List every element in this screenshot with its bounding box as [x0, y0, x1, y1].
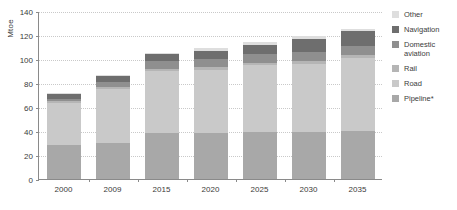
- x-axis-tick-mark: [187, 179, 188, 182]
- bar-segment[interactable]: [194, 133, 228, 179]
- bar-segment[interactable]: [292, 52, 326, 62]
- bar-segment[interactable]: [341, 31, 375, 45]
- bar-segment[interactable]: [292, 132, 326, 179]
- x-axis-tick-mark: [236, 179, 237, 182]
- legend-swatch-icon: [392, 95, 399, 102]
- stacked-bar[interactable]: [194, 48, 228, 179]
- y-axis-tick-label: 60: [24, 104, 33, 113]
- legend-item[interactable]: Road: [392, 79, 457, 88]
- x-axis-tick-label: 2015: [153, 185, 171, 194]
- bar-segment[interactable]: [243, 54, 277, 62]
- x-axis-tick-label: 2030: [300, 185, 318, 194]
- x-axis-tick-label: 2000: [55, 185, 73, 194]
- bar-segment[interactable]: [341, 58, 375, 131]
- bar-segment[interactable]: [341, 131, 375, 179]
- bar-segment[interactable]: [243, 132, 277, 179]
- stacked-bar[interactable]: [292, 36, 326, 179]
- bar-group[interactable]: 2015: [145, 12, 179, 179]
- y-axis-tick-label: 100: [20, 56, 33, 65]
- stacked-bar-chart: Mtoe 020406080100120140 2000200920152020…: [0, 0, 457, 210]
- bar-segment[interactable]: [145, 61, 179, 68]
- legend-swatch-icon: [392, 11, 399, 18]
- legend-item-label: Pipeline*: [404, 94, 434, 103]
- bar-group[interactable]: 2009: [96, 12, 130, 179]
- x-axis-tick-mark: [89, 179, 90, 182]
- bar-segment[interactable]: [292, 39, 326, 52]
- legend-item-label: Other: [404, 10, 423, 19]
- bar-group[interactable]: 2020: [194, 12, 228, 179]
- bar-segment[interactable]: [194, 70, 228, 134]
- y-axis-tick-label: 20: [24, 152, 33, 161]
- bar-segment[interactable]: [194, 59, 228, 67]
- plot-area: 020406080100120140 200020092015202020252…: [38, 12, 382, 180]
- legend-item-label: Road: [404, 79, 422, 88]
- bar-segment[interactable]: [292, 64, 326, 132]
- stacked-bar[interactable]: [145, 53, 179, 179]
- y-axis-tick-mark: [36, 180, 39, 181]
- x-axis-tick-label: 2009: [104, 185, 122, 194]
- x-axis-tick-mark: [334, 179, 335, 182]
- legend-item-label: Rail: [404, 64, 417, 73]
- stacked-bar[interactable]: [47, 93, 81, 179]
- y-axis-tick-label: 0: [29, 176, 33, 185]
- bar-group[interactable]: 2030: [292, 12, 326, 179]
- bar-group[interactable]: 2035: [341, 12, 375, 179]
- legend-item[interactable]: Rail: [392, 64, 457, 73]
- bar-segment[interactable]: [145, 71, 179, 133]
- bar-group[interactable]: 2025: [243, 12, 277, 179]
- bar-group[interactable]: 2000: [47, 12, 81, 179]
- y-axis-tick-label: 140: [20, 8, 33, 17]
- legend-swatch-icon: [392, 26, 399, 33]
- legend-item-label: Domestic aviation: [404, 40, 435, 58]
- bar-segment[interactable]: [341, 46, 375, 56]
- stacked-bar[interactable]: [243, 42, 277, 179]
- legend-item[interactable]: Domestic aviation: [392, 40, 457, 58]
- legend-item[interactable]: Other: [392, 10, 457, 19]
- y-axis-tick-label: 40: [24, 128, 33, 137]
- bar-segment[interactable]: [145, 133, 179, 179]
- bar-segment[interactable]: [47, 145, 81, 179]
- stacked-bar[interactable]: [341, 29, 375, 179]
- y-axis-label: Mtoe: [6, 6, 15, 52]
- bar-segment[interactable]: [47, 103, 81, 145]
- x-axis-tick-mark: [138, 179, 139, 182]
- bar-segment[interactable]: [96, 89, 130, 143]
- bar-segment[interactable]: [96, 143, 130, 179]
- legend-swatch-icon: [392, 41, 399, 48]
- bar-segment[interactable]: [145, 54, 179, 61]
- legend-swatch-icon: [392, 65, 399, 72]
- legend-swatch-icon: [392, 80, 399, 87]
- y-axis-tick-label: 80: [24, 80, 33, 89]
- x-axis-tick-label: 2025: [251, 185, 269, 194]
- y-axis-tick-label: 120: [20, 32, 33, 41]
- x-axis-tick-mark: [285, 179, 286, 182]
- bar-series-container: 2000200920152020202520302035: [39, 12, 382, 179]
- bar-segment[interactable]: [194, 51, 228, 59]
- bar-segment[interactable]: [243, 65, 277, 132]
- legend-item-label: Navigation: [404, 25, 439, 34]
- legend-item[interactable]: Pipeline*: [392, 94, 457, 103]
- x-axis-tick-label: 2020: [202, 185, 220, 194]
- bar-segment[interactable]: [243, 45, 277, 55]
- chart-legend: OtherNavigationDomestic aviationRailRoad…: [392, 10, 457, 109]
- x-axis-tick-label: 2035: [349, 185, 367, 194]
- legend-item[interactable]: Navigation: [392, 25, 457, 34]
- stacked-bar[interactable]: [96, 75, 130, 179]
